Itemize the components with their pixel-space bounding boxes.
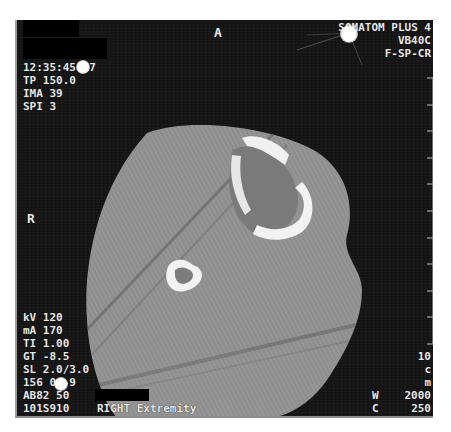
- flare-top-right: [340, 25, 358, 43]
- image-number: IMA 39: [23, 87, 63, 100]
- ct-image-viewport[interactable]: A R SOMATOM PLUS 4 VB40C F-SP-CR 12:35:4…: [15, 20, 433, 418]
- series-id: 101S910: [23, 402, 69, 415]
- orientation-anterior-label: A: [214, 26, 222, 40]
- center-label: C: [372, 402, 379, 415]
- ma-value: mA 170: [23, 324, 63, 337]
- slice-thickness-value: SL 2.0/3.0: [23, 363, 89, 376]
- redacted-patient-id: [23, 38, 107, 59]
- kv-value: kV 120: [23, 311, 63, 324]
- ct-slice-image: [17, 20, 433, 418]
- window-value[interactable]: 2000: [405, 389, 432, 402]
- scale-unit-c: c: [424, 363, 431, 376]
- spiral-number: SPI 3: [23, 100, 56, 113]
- orientation-right-label: R: [27, 212, 35, 226]
- body-part-label: RIGHT Extremity: [97, 402, 196, 415]
- scale-unit-m: m: [424, 376, 431, 389]
- window-label: W: [372, 389, 379, 402]
- table-position: TP 150.0: [23, 74, 76, 87]
- flare-bottom-left: [54, 377, 68, 391]
- gantry-tilt-value: GT -8.5: [23, 350, 69, 363]
- kernel-label: F-SP-CR: [385, 47, 431, 60]
- center-value[interactable]: 250: [411, 402, 431, 415]
- flare-top-left: [76, 60, 90, 74]
- scale-value: 10: [418, 350, 431, 363]
- software-version-label: VB40C: [398, 34, 431, 47]
- redacted-bottom-info: [95, 389, 149, 401]
- redacted-patient-name: [23, 20, 79, 37]
- scale-bar: [421, 76, 433, 348]
- ab-value: AB82 50: [23, 389, 69, 402]
- ti-value: TI 1.00: [23, 337, 69, 350]
- fov-value: 156 0/-9: [23, 376, 76, 389]
